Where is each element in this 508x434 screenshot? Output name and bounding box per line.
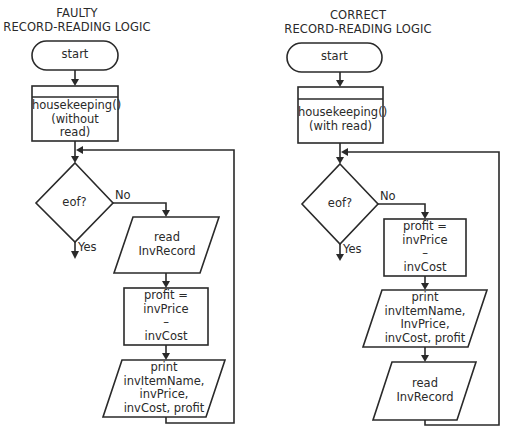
left-profit-line2: invPrice: [124, 303, 208, 317]
left-housekeeping-line3: read): [32, 126, 118, 140]
left-read-label: read InvRecord: [124, 231, 210, 258]
right-print-line2: invItemName,: [371, 305, 479, 319]
right-no-label: No: [380, 190, 396, 203]
left-print-line4: invCost, profit: [110, 402, 218, 416]
correct-title-line1: CORRECT: [268, 8, 448, 22]
left-profit-line3: –: [124, 316, 208, 330]
arrowhead-icon: [336, 80, 344, 87]
right-edge-no: [378, 204, 425, 213]
correct-title-line2: RECORD-READING LOGIC: [268, 22, 448, 36]
right-print-line1: print: [371, 291, 479, 305]
correct-title: CORRECT RECORD-READING LOGIC: [268, 8, 448, 36]
arrowhead-icon: [162, 210, 170, 217]
arrowhead-icon: [162, 281, 170, 288]
arrowhead-icon: [421, 283, 429, 290]
left-housekeeping-line1: housekeeping(): [32, 99, 118, 113]
right-housekeeping-line1: housekeeping(): [298, 106, 383, 120]
faulty-title-line2: RECORD-READING LOGIC: [0, 20, 154, 34]
right-read-line1: read: [382, 377, 468, 391]
right-eof-label: eof?: [302, 197, 378, 211]
arrowhead-icon: [421, 355, 429, 362]
right-housekeeping-line2: (with read): [298, 120, 383, 134]
left-profit-label: profit = invPrice – invCost: [124, 289, 208, 343]
right-print-label: print invItemName, InvPrice, invCost, pr…: [371, 291, 479, 345]
arrowhead-icon: [162, 353, 170, 360]
left-eof-label: eof?: [36, 196, 113, 210]
right-profit-line1: profit =: [384, 220, 466, 234]
left-edge-no: [113, 203, 166, 211]
right-profit-label: profit = invPrice – invCost: [384, 220, 466, 274]
left-print-line1: print: [110, 361, 218, 375]
left-yes-label: Yes: [78, 241, 97, 254]
arrowhead-icon: [421, 212, 429, 219]
arrowhead-icon: [76, 146, 83, 154]
right-profit-line2: invPrice: [384, 234, 466, 248]
arrowhead-icon: [341, 148, 348, 156]
faulty-title-line1: FAULTY: [0, 6, 154, 20]
right-profit-line4: invCost: [384, 261, 466, 275]
right-print-line4: invCost, profit: [371, 332, 479, 346]
arrowhead-icon: [71, 79, 79, 86]
faulty-title: FAULTY RECORD-READING LOGIC: [0, 6, 154, 34]
left-print-label: print invItemName, invPrice, invCost, pr…: [110, 361, 218, 415]
flowchart-canvas: [0, 0, 508, 434]
left-profit-line4: invCost: [124, 330, 208, 344]
right-read-label: read InvRecord: [382, 377, 468, 404]
left-read-line1: read: [124, 231, 210, 245]
left-start-label: start: [32, 48, 118, 62]
left-print-line3: invPrice,: [110, 388, 218, 402]
right-profit-line3: –: [384, 247, 466, 261]
left-housekeeping-label: housekeeping() (without read): [32, 99, 118, 140]
left-print-line2: invItemName,: [110, 375, 218, 389]
right-yes-label: Yes: [343, 243, 362, 256]
left-profit-line1: profit =: [124, 289, 208, 303]
left-housekeeping-line2: (without: [32, 113, 118, 127]
left-read-line2: InvRecord: [124, 245, 210, 259]
right-read-line2: InvRecord: [382, 391, 468, 405]
right-housekeeping-label: housekeeping() (with read): [298, 106, 383, 133]
right-print-line3: InvPrice,: [371, 318, 479, 332]
left-no-label: No: [115, 189, 131, 202]
right-start-label: start: [287, 50, 382, 64]
